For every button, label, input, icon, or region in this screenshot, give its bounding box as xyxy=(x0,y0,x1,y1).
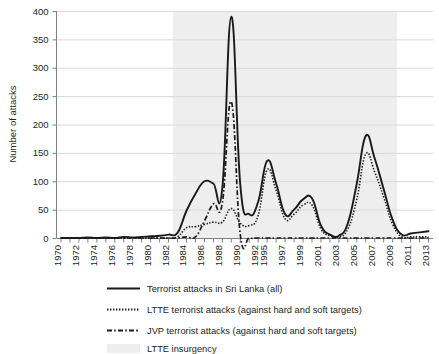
y-tick-label: 300 xyxy=(33,62,49,73)
x-axis-tick-labels: 1970197219741976197819801982198419861988… xyxy=(52,245,431,266)
x-tick-label: 2001 xyxy=(312,245,323,266)
x-tick-label: 1978 xyxy=(124,245,135,266)
x-tick-label: 2005 xyxy=(348,245,359,266)
y-tick-label: 250 xyxy=(33,91,49,102)
x-tick-label: 2003 xyxy=(330,245,341,266)
y-tick-label: 200 xyxy=(33,119,49,130)
x-tick-label: 1982 xyxy=(160,245,171,266)
chart-legend: Terrorist attacks in Sri Lanka (all) LTT… xyxy=(107,284,362,354)
x-tick-label: 2011 xyxy=(402,245,413,265)
x-tick-label: 2007 xyxy=(366,245,377,266)
chart-container: 050100150200250300350400 197019721974197… xyxy=(0,0,439,354)
x-tick-label: 1972 xyxy=(70,245,81,266)
x-tick-label: 1974 xyxy=(88,245,99,266)
x-tick-label: 1970 xyxy=(52,245,63,266)
y-tick-label: 350 xyxy=(33,34,49,45)
legend-label-jvp: JVP terrorist attacks (against hard and … xyxy=(147,326,357,336)
x-axis-ticks xyxy=(61,239,429,243)
legend-label-insurgency: LTTE insurgency xyxy=(147,344,217,354)
y-tick-label: 150 xyxy=(33,147,49,158)
x-tick-label: 1988 xyxy=(213,245,224,266)
x-tick-label: 1976 xyxy=(106,245,117,266)
y-tick-label: 100 xyxy=(33,176,49,187)
y-axis-ticks: 050100150200250300350400 xyxy=(33,6,57,244)
y-tick-label: 50 xyxy=(38,204,49,215)
legend-marker-shaded-band xyxy=(107,344,140,353)
x-tick-label: 1999 xyxy=(294,245,305,266)
y-tick-label: 0 xyxy=(43,233,48,244)
x-tick-label: 1986 xyxy=(195,245,206,266)
x-tick-label: 2009 xyxy=(384,245,395,266)
x-tick-label: 1995 xyxy=(258,245,269,266)
legend-label-ltte: LTTE terrorist attacks (against hard and… xyxy=(147,305,362,315)
x-tick-label: 1980 xyxy=(142,245,153,266)
legend-label-all: Terrorist attacks in Sri Lanka (all) xyxy=(147,284,282,294)
y-axis-title: Number of attacks xyxy=(7,85,18,162)
x-tick-label: 1984 xyxy=(177,245,188,266)
x-tick-label: 2013 xyxy=(420,245,431,266)
y-tick-label: 400 xyxy=(33,6,49,17)
x-tick-label: 1990 xyxy=(231,245,242,266)
x-tick-label: 1997 xyxy=(276,245,287,266)
attacks-line-chart: 050100150200250300350400 197019721974197… xyxy=(0,0,439,354)
